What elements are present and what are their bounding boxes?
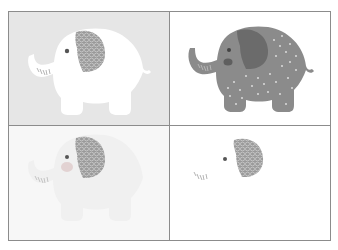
vertical-divider bbox=[169, 11, 170, 241]
horizontal-divider bbox=[8, 125, 331, 126]
